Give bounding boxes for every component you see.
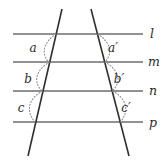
line-label-m: m [148, 54, 160, 69]
parallel-lines-transversals-diagram: a b c a′ b′ c′ l m n p [0, 0, 166, 163]
angle-label-c: c [18, 101, 25, 115]
angle-label-b-prime: b′ [114, 72, 125, 86]
angle-label-a: a [29, 41, 36, 55]
angle-label-c-prime: c′ [121, 101, 131, 115]
line-label-l: l [150, 26, 154, 41]
angle-label-a-prime: a′ [108, 41, 118, 55]
angle-label-b: b [24, 72, 32, 86]
line-label-n: n [149, 83, 157, 98]
line-label-p: p [149, 115, 157, 130]
geometry-figure: a b c a′ b′ c′ l m n p [0, 0, 166, 163]
